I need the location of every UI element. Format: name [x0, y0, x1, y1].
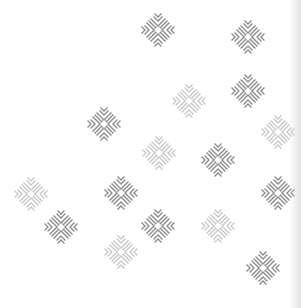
- snowflake-icon: [201, 209, 235, 243]
- snowflake-icon: [104, 235, 138, 269]
- snowflake-icon: [201, 143, 235, 177]
- snowflake-icon: [14, 177, 48, 211]
- snowflake-icon: [141, 13, 175, 47]
- snowflake-icon: [141, 209, 175, 243]
- snowflake-icon: [104, 176, 138, 210]
- snowflake-icon: [261, 115, 295, 149]
- right-edge-shadow: [289, 0, 301, 308]
- snowflake-icon: [231, 20, 265, 54]
- snowflake-icon: [44, 210, 78, 244]
- snowflake-icon: [231, 74, 265, 108]
- snowflake-icon: [87, 107, 121, 141]
- snowflake-icon: [246, 251, 280, 285]
- snowflake-icon: [261, 176, 295, 210]
- snowflake-icon: [142, 136, 176, 170]
- snowflake-pattern-canvas: [0, 0, 301, 308]
- snowflake-icon: [172, 84, 206, 118]
